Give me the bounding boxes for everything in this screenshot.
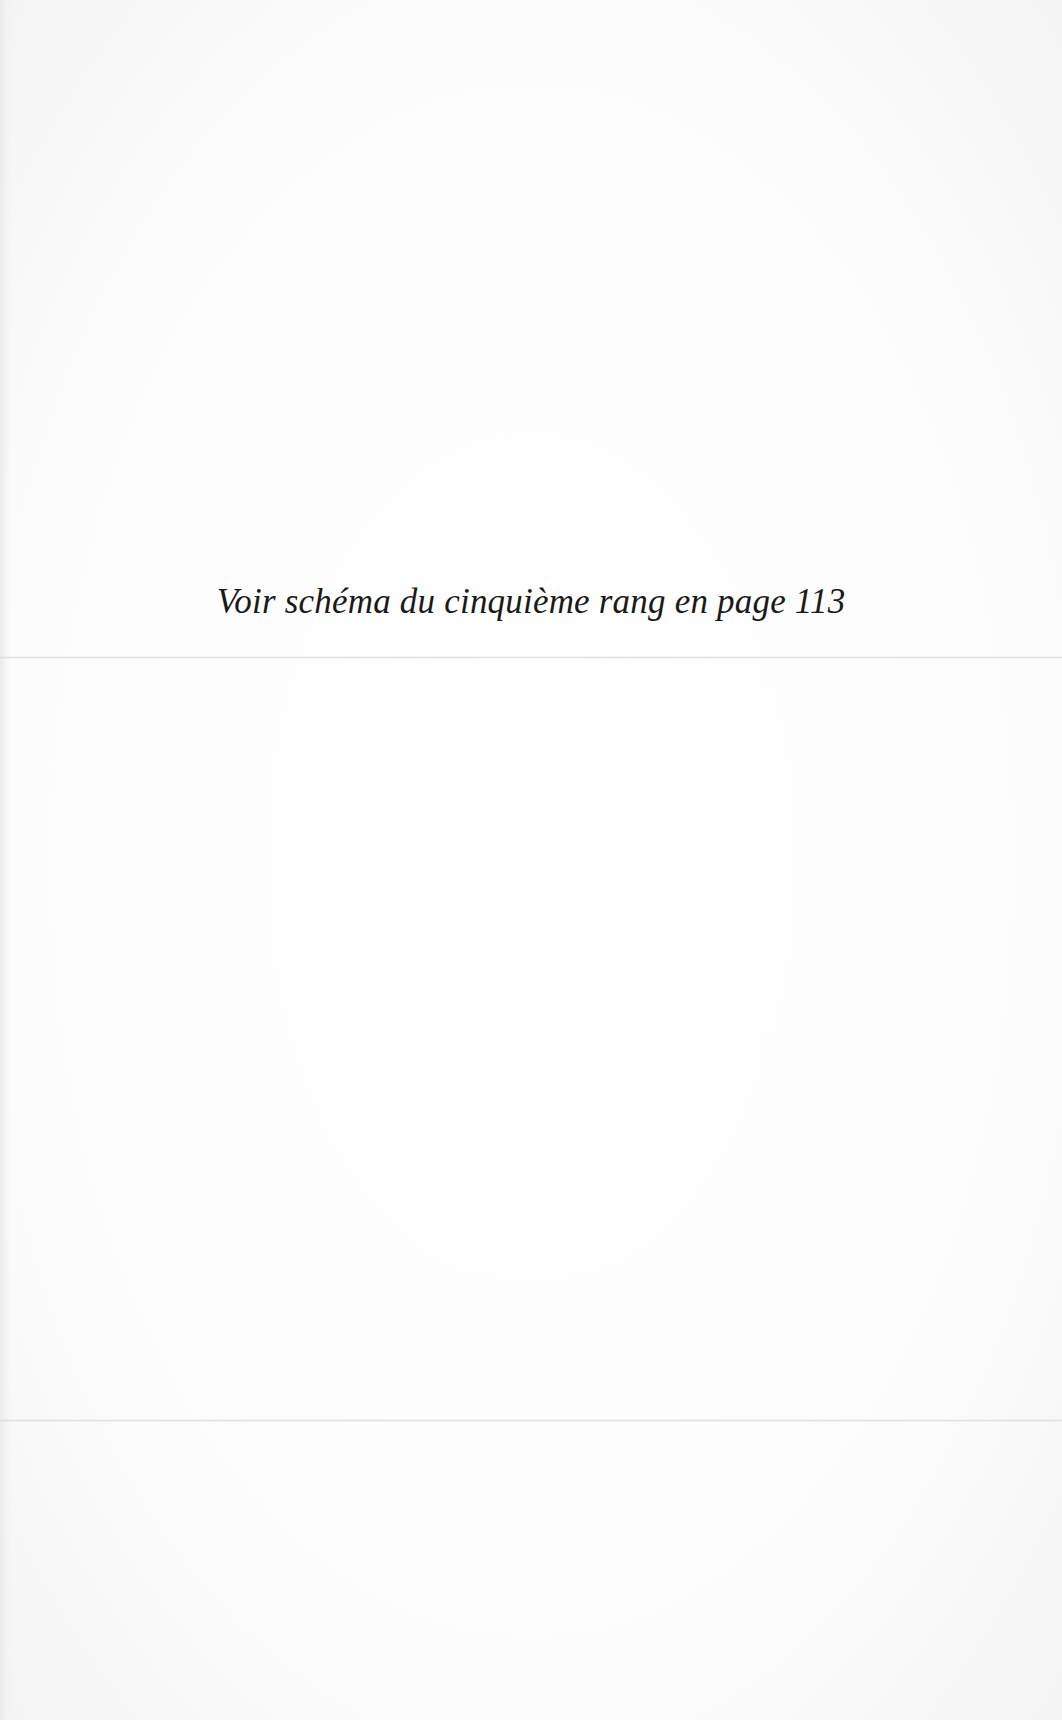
fold-line <box>0 656 1062 659</box>
fold-line <box>0 1419 1062 1422</box>
cross-reference-note: Voir schéma du cinquième rang en page 11… <box>0 580 1062 624</box>
scanned-page: Voir schéma du cinquième rang en page 11… <box>0 0 1062 1720</box>
page-edge-shadow <box>0 0 10 1720</box>
